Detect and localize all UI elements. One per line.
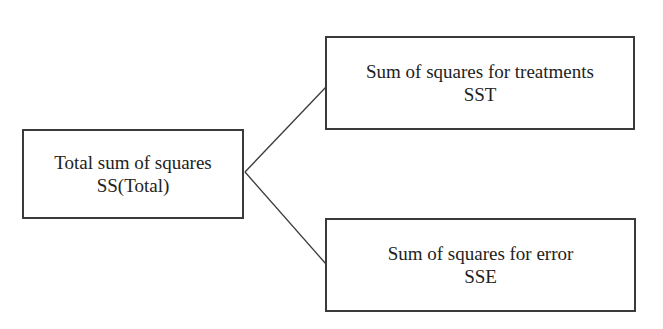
total-sum-of-squares-box: Total sum of squares SS(Total) — [22, 129, 244, 219]
box-symbol: SSE — [464, 265, 497, 288]
treatments-sum-of-squares-box: Sum of squares for treatments SST — [325, 36, 635, 130]
box-label: Sum of squares for treatments — [366, 60, 594, 83]
box-symbol: SST — [464, 83, 497, 106]
error-sum-of-squares-box: Sum of squares for error SSE — [325, 218, 636, 312]
box-label: Sum of squares for error — [388, 242, 574, 265]
box-symbol: SS(Total) — [97, 174, 170, 197]
connector-to-sst — [245, 87, 326, 172]
connector-to-sse — [245, 172, 326, 264]
box-label: Total sum of squares — [54, 151, 212, 174]
